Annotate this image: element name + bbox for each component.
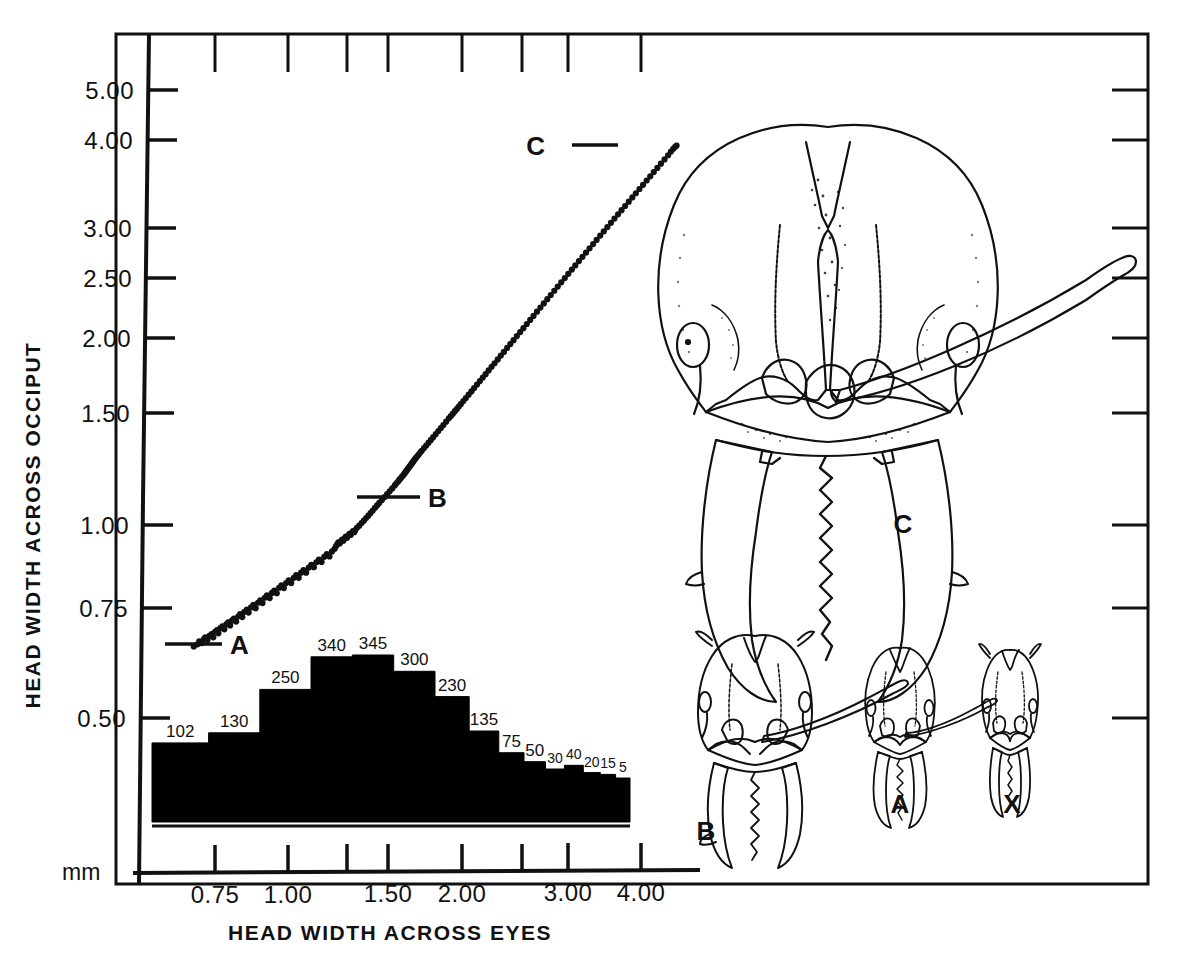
right-axis-ticks [1112, 90, 1148, 718]
histogram-bin-label: 250 [271, 668, 299, 687]
histogram-bin-label: 5 [619, 759, 627, 775]
x-tick-label: 3.00 [544, 879, 593, 906]
drawing-label-c: C [894, 509, 913, 539]
drawing-label-a: A [891, 789, 910, 819]
y-axis-line [139, 34, 149, 884]
x-axis-line [133, 870, 700, 873]
histogram-bars [152, 655, 630, 822]
x-tick-label: 1.50 [364, 880, 413, 907]
histogram-bin-label: 340 [318, 636, 346, 655]
histogram-group [152, 655, 630, 826]
histogram-bin-label: 345 [359, 634, 387, 653]
x-tick-label: 2.00 [438, 880, 487, 907]
scatter-point [233, 619, 239, 625]
drawing-label-b: B [697, 816, 716, 846]
scatter-point [210, 634, 216, 640]
histogram-bin-label: 40 [566, 746, 582, 762]
y-tick-label: 0.50 [77, 705, 126, 732]
y-tick-label: 0.75 [79, 595, 128, 622]
callout-label-b: B [428, 483, 447, 513]
scatter-points-group [191, 142, 680, 649]
callout-c: C [526, 131, 618, 161]
histogram-bin-label: 230 [438, 676, 466, 695]
callout-label-c: C [526, 131, 545, 161]
x-tick-label: 4.00 [617, 879, 666, 906]
top-axis-ticks [215, 34, 641, 72]
scatter-point [288, 580, 294, 586]
unit-label: mm [62, 859, 100, 885]
histogram-bin-label: 102 [166, 722, 194, 741]
x-tick-label: 1.00 [264, 881, 313, 908]
y-tick-label: 4.00 [84, 127, 133, 154]
callout-label-a: A [230, 630, 249, 660]
scatter-point [259, 600, 265, 606]
histogram-bin-label: 300 [400, 650, 428, 669]
y-tick-label: 1.50 [81, 400, 130, 427]
y-tick-labels: 5.00 4.00 3.00 2.50 2.00 1.50 1.00 0.75 … [77, 77, 134, 732]
drawing-label-x: X [1003, 789, 1021, 819]
histogram-bin-label: 50 [525, 741, 544, 760]
y-tick-label: 1.00 [80, 512, 129, 539]
y-tick-label: 3.00 [83, 215, 132, 242]
figure-canvas: 5.00 4.00 3.00 2.50 2.00 1.50 1.00 0.75 … [0, 0, 1191, 956]
drawing-a [865, 648, 997, 828]
histogram-bin-label: 130 [220, 712, 248, 731]
scatter-point [673, 142, 679, 148]
scatter-point [274, 590, 280, 596]
histogram-bin-label: 15 [600, 755, 616, 771]
histogram-bin-label: 75 [502, 732, 521, 751]
y-axis-title: HEAD WIDTH ACROSS OCCIPUT [21, 342, 44, 709]
x-tick-label: 0.75 [191, 881, 240, 908]
x-axis-ticks [215, 843, 641, 872]
histogram-bin-label: 20 [584, 754, 600, 770]
figure-root: 5.00 4.00 3.00 2.50 2.00 1.50 1.00 0.75 … [0, 0, 1191, 956]
scatter-point [253, 605, 259, 611]
y-tick-label: 5.00 [85, 77, 134, 104]
histogram-bin-label: 30 [547, 750, 563, 766]
y-tick-label: 2.50 [83, 265, 132, 292]
x-axis-title: HEAD WIDTH ACROSS EYES [228, 921, 552, 944]
histogram-bin-label: 135 [470, 710, 498, 729]
y-tick-label: 2.00 [82, 325, 131, 352]
drawing-c [658, 125, 1136, 702]
